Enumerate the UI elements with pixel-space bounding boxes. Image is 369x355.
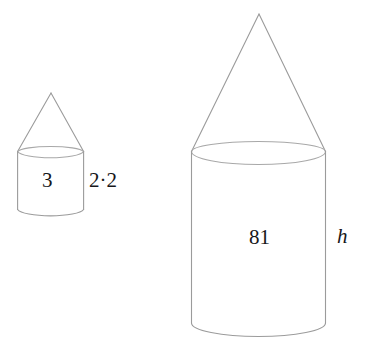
small-cylinder-bottom-arc-icon — [18, 210, 84, 216]
small-solid-radius-label: 3 — [42, 170, 53, 191]
large-solid — [192, 14, 326, 336]
small-cylinder-top-ellipse-icon — [18, 152, 84, 158]
geometry-diagram — [0, 0, 369, 355]
small-cone-base-back-arc-icon — [18, 146, 84, 151]
large-cone-slant-right-icon — [259, 14, 326, 152]
small-solid-height-label: 2·2 — [89, 170, 117, 191]
large-cylinder-top-ellipse-icon — [192, 152, 326, 165]
large-solid-height-label: h — [337, 226, 348, 247]
small-solid — [18, 93, 84, 216]
small-cone-slant-left-icon — [18, 93, 51, 152]
large-solid-radius-label: 81 — [249, 227, 270, 248]
large-cone-base-back-arc-icon — [192, 142, 326, 152]
figure-canvas: 3 2·2 81 h — [0, 0, 369, 355]
large-cone-slant-left-icon — [192, 14, 260, 152]
large-cylinder-bottom-arc-icon — [192, 323, 326, 336]
small-cone-slant-right-icon — [51, 93, 84, 152]
